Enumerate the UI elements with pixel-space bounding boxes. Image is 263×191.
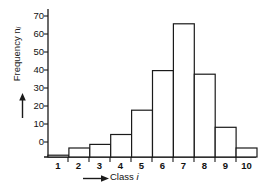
histogram-bar bbox=[111, 135, 132, 158]
x-tick-label-4: 4 bbox=[110, 161, 131, 171]
histogram-bar bbox=[215, 127, 236, 157]
x-axis-title-text: Class bbox=[110, 171, 134, 182]
histogram-bar bbox=[69, 148, 90, 157]
x-tick-label-2: 2 bbox=[68, 161, 89, 171]
histogram-bars bbox=[48, 24, 257, 157]
x-tick-label-1: 1 bbox=[47, 161, 69, 171]
histogram-bar bbox=[48, 155, 69, 157]
histogram-bar bbox=[173, 24, 194, 157]
histogram-bar bbox=[194, 74, 215, 157]
x-tick-label-10: 10 bbox=[236, 161, 257, 171]
x-tick-label-8: 8 bbox=[194, 161, 215, 171]
x-tick-label-3: 3 bbox=[89, 161, 110, 171]
x-axis-arrow-right-icon bbox=[83, 174, 109, 183]
histogram-bar bbox=[153, 71, 174, 157]
histogram-bar bbox=[90, 144, 111, 157]
x-tick-label-7: 7 bbox=[173, 161, 194, 171]
x-axis-title: Class i bbox=[110, 171, 139, 182]
x-axis-title-variable: i bbox=[136, 171, 138, 182]
histogram-chart: Frequency ni 70 60 50 40 30 20 10 0 bbox=[0, 0, 263, 191]
x-tick-label-6: 6 bbox=[152, 161, 173, 171]
histogram-bar bbox=[236, 148, 257, 157]
x-tick-label-5: 5 bbox=[131, 161, 152, 171]
x-tick-label-9: 9 bbox=[215, 161, 236, 171]
histogram-bar bbox=[132, 110, 153, 157]
